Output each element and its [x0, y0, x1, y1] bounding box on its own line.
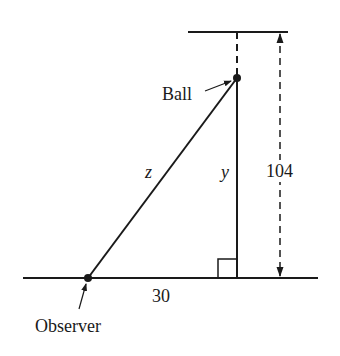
observer-point	[84, 274, 92, 282]
hypotenuse-z	[88, 78, 237, 278]
right-angle-marker	[218, 259, 237, 278]
observer-pointer-arrow	[79, 284, 86, 309]
dimension-arrow-down-icon	[277, 267, 284, 277]
dimension-arrow-up-icon	[277, 33, 284, 43]
ball-pointer-arrow	[205, 81, 231, 91]
observer-label: Observer	[35, 316, 101, 336]
height-value-label: 104	[266, 161, 293, 181]
vertical-label: y	[219, 162, 229, 182]
base-value-label: 30	[152, 286, 170, 306]
ball-label: Ball	[162, 84, 192, 104]
diagram-canvas: Ball Observer z y 104 30	[0, 0, 340, 356]
hypotenuse-label: z	[144, 162, 152, 182]
ball-point	[233, 74, 241, 82]
